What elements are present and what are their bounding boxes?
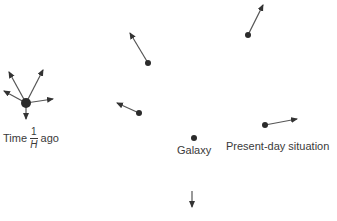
velocity-arrow-icon [130, 33, 148, 63]
expansion-diagram [0, 0, 337, 221]
time-prefix: Time [3, 133, 27, 144]
galaxy-upper-middle-dot [145, 60, 151, 66]
galaxy-right-dot [262, 122, 268, 128]
time-fraction: 1 H [30, 127, 38, 150]
velocity-arrow-icon [265, 119, 297, 125]
time-ago-label: Time 1 H ago [3, 127, 59, 150]
galaxy-label: Galaxy [177, 145, 211, 156]
galaxy-upper-right-dot [245, 32, 251, 38]
fraction-numerator: 1 [30, 127, 38, 139]
present-day-label: Present-day situation [226, 141, 329, 152]
velocity-arrow-icon [117, 103, 139, 113]
fraction-denominator: H [30, 139, 37, 150]
velocity-arrow-icon [26, 70, 43, 103]
galaxy-cluster-dot [21, 98, 31, 108]
present-galaxies [117, 5, 297, 207]
time-suffix: ago [41, 133, 59, 144]
past-cluster [4, 70, 53, 119]
galaxy-reference-dot [191, 135, 197, 141]
galaxy-middle-left-dot [136, 110, 142, 116]
velocity-arrow-icon [248, 5, 263, 35]
